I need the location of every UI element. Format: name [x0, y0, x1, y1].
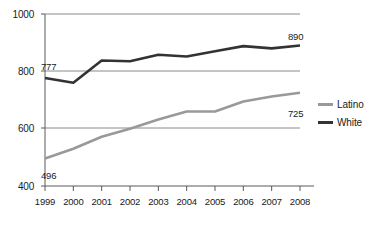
y-axis-ticks	[41, 14, 45, 186]
gridlines	[45, 14, 300, 128]
legend-label-white: White	[337, 117, 362, 128]
x-tick-label: 2003	[143, 196, 173, 207]
data-label-white-2008: 890	[288, 31, 303, 42]
x-tick-label: 2002	[115, 196, 145, 207]
legend-swatch-white	[318, 121, 333, 124]
x-tick-label: 2005	[200, 196, 230, 207]
x-tick-label: 2006	[228, 196, 258, 207]
series-lines	[45, 46, 300, 159]
legend-item-white: White	[318, 117, 362, 128]
x-axis-ticks	[45, 186, 300, 191]
y-tick-label-600: 600	[2, 123, 34, 134]
x-tick-label: 2004	[172, 196, 202, 207]
series-line-latino	[45, 93, 300, 159]
x-tick-label: 2001	[87, 196, 117, 207]
y-tick-label-800: 800	[2, 66, 34, 77]
legend-label-latino: Latino	[337, 99, 364, 110]
plot-area	[0, 0, 373, 229]
series-line-white	[45, 46, 300, 83]
x-tick-label: 1999	[30, 196, 60, 207]
data-label-white-1999: 777	[41, 61, 56, 72]
data-label-latino-1999: 496	[41, 170, 56, 181]
legend-swatch-latino	[318, 103, 333, 106]
x-tick-label: 2000	[58, 196, 88, 207]
data-label-latino-2008: 725	[288, 108, 303, 119]
legend-item-latino: Latino	[318, 99, 364, 110]
line-chart: 1000 800 600 400 19992000200120022003200…	[0, 0, 373, 229]
x-tick-label: 2007	[257, 196, 287, 207]
y-tick-label-400: 400	[2, 181, 34, 192]
x-tick-label: 2008	[285, 196, 315, 207]
y-tick-label-1000: 1000	[2, 9, 34, 20]
